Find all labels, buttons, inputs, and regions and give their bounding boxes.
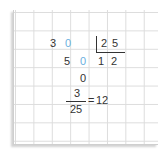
dividend-digit-1: 3 xyxy=(50,38,56,49)
final-remainder: 0 xyxy=(80,73,86,84)
result-value: 12 xyxy=(96,95,108,106)
division-bracket-horizontal xyxy=(96,52,125,53)
fraction-numerator: 3 xyxy=(68,87,86,99)
quotient-digit-1: 1 xyxy=(98,56,104,67)
remainder-digit-1: 5 xyxy=(64,56,70,67)
divisor-digit-2: 5 xyxy=(112,38,118,49)
dividend-digit-2: 0 xyxy=(65,38,71,49)
worksheet-stage: 3 0 2 5 5 0 1 2 0 3 25 = 12 xyxy=(0,0,164,155)
remainder-digit-2: 0 xyxy=(80,56,86,67)
division-bracket-vertical xyxy=(96,36,97,52)
divisor-digit-1: 2 xyxy=(101,38,107,49)
fraction-denominator: 25 xyxy=(67,103,85,115)
fraction-bar xyxy=(66,101,86,102)
quotient-digit-2: 2 xyxy=(111,56,117,67)
equals-sign: = xyxy=(88,95,94,106)
